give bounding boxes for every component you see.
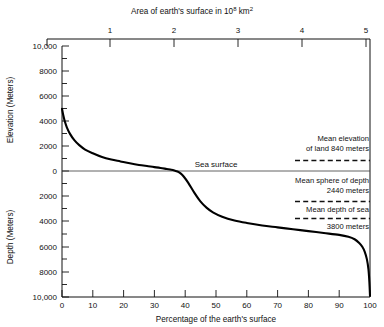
mean-elevation-line2: of land 840 meters bbox=[306, 144, 369, 153]
y-label-6000-up: 6000 bbox=[39, 92, 57, 101]
x-label-10: 10 bbox=[88, 301, 97, 310]
percentage-axis-title: Percentage of the earth's surface bbox=[156, 315, 277, 324]
mean-depth-line1: Mean depth of sea bbox=[306, 205, 370, 214]
top-axis-title: Area of earth's surface in 108 km2 bbox=[131, 6, 254, 16]
x-label-70: 70 bbox=[273, 301, 282, 310]
y-label-8000-dn: 8000 bbox=[39, 268, 57, 277]
y-label-10000-dn: 10,000 bbox=[33, 293, 58, 302]
top-tick-label-3: 3 bbox=[236, 26, 241, 35]
depth-axis-title: Depth (Meters) bbox=[6, 209, 15, 264]
y-label-4000-dn: 4000 bbox=[39, 217, 57, 226]
elevation-axis-minor-ticks bbox=[62, 59, 67, 285]
y-label-0: 0 bbox=[53, 167, 58, 176]
x-label-40: 40 bbox=[181, 301, 190, 310]
mean-sphere-line2: 2440 meters bbox=[327, 186, 369, 195]
top-tick-label-4: 4 bbox=[300, 26, 305, 35]
mean-sphere-line1: Mean sphere of depth bbox=[295, 176, 369, 185]
y-label-6000-dn: 6000 bbox=[39, 243, 57, 252]
y-label-2000-up: 2000 bbox=[39, 142, 57, 151]
x-label-90: 90 bbox=[335, 301, 344, 310]
y-label-4000-up: 4000 bbox=[39, 117, 57, 126]
y-label-10000-up: 10,000 bbox=[33, 42, 58, 51]
top-axis-tick-labels: 1 2 3 4 5 bbox=[108, 26, 369, 35]
top-axis-title-prefix: Area of earth's surface in 10 bbox=[131, 7, 234, 16]
x-label-20: 20 bbox=[119, 301, 128, 310]
mean-sphere-annotation: Mean sphere of depth 2440 meters bbox=[295, 176, 369, 195]
x-label-30: 30 bbox=[150, 301, 159, 310]
x-label-100: 100 bbox=[363, 301, 377, 310]
mean-elevation-line1: Mean elevation bbox=[317, 134, 369, 143]
y-label-8000-up: 8000 bbox=[39, 67, 57, 76]
top-tick-label-5: 5 bbox=[364, 26, 369, 35]
sea-surface-label: Sea surface bbox=[195, 160, 238, 169]
chart-canvas: Area of earth's surface in 108 km2 1 2 3… bbox=[0, 0, 384, 327]
percentage-axis-ticks bbox=[62, 290, 370, 297]
top-axis-title-sup2: 2 bbox=[250, 6, 254, 12]
top-tick-label-2: 2 bbox=[172, 26, 177, 35]
mean-depth-line2: 3800 meters bbox=[327, 222, 369, 231]
top-tick-label-1: 1 bbox=[108, 26, 113, 35]
x-label-50: 50 bbox=[212, 301, 221, 310]
x-label-0: 0 bbox=[60, 301, 65, 310]
y-label-2000-dn: 2000 bbox=[39, 192, 57, 201]
elevation-axis-title: Elevation (Meters) bbox=[6, 77, 15, 144]
elevation-axis-tick-labels: 10,000 8000 6000 4000 2000 0 2000 4000 6… bbox=[33, 42, 58, 302]
top-axis-title-mid: km bbox=[236, 7, 249, 16]
percentage-axis-tick-labels: 0 10 20 30 40 50 60 70 80 90 100 bbox=[60, 301, 377, 310]
hypsographic-curve-figure: Area of earth's surface in 108 km2 1 2 3… bbox=[0, 0, 384, 327]
x-label-80: 80 bbox=[304, 301, 313, 310]
mean-elevation-annotation: Mean elevation of land 840 meters bbox=[306, 134, 369, 153]
x-label-60: 60 bbox=[242, 301, 251, 310]
